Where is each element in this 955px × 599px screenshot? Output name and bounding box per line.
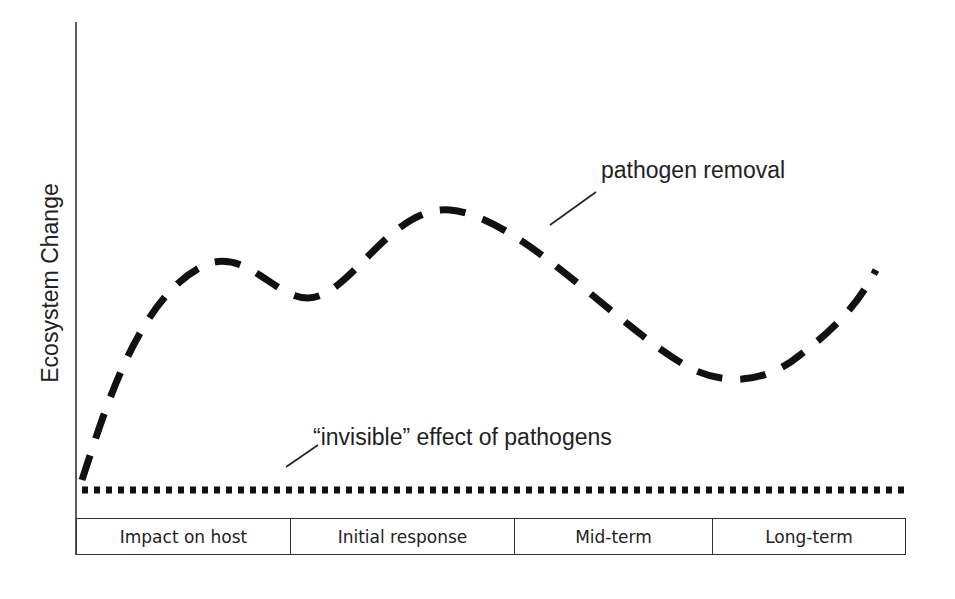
phase-long-term: Long-term: [713, 519, 905, 554]
phase-initial-response: Initial response: [291, 519, 515, 554]
y-axis-label: Ecosystem Change: [37, 183, 64, 382]
diagram-canvas: [0, 0, 955, 599]
phase-timeline: Impact on host Initial response Mid-term…: [76, 518, 906, 555]
invisible-effect-label: “invisible” effect of pathogens: [313, 424, 612, 451]
phase-impact-on-host: Impact on host: [77, 519, 291, 554]
phase-mid-term: Mid-term: [515, 519, 713, 554]
removal-leader-line: [550, 192, 596, 225]
pathogen-removal-label: pathogen removal: [601, 157, 785, 184]
